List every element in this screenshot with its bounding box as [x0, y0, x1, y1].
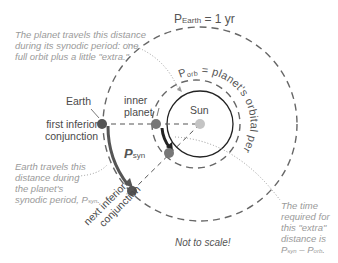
sun-dot — [195, 119, 205, 129]
psyn-label: Psyn — [124, 146, 145, 161]
planet-label-leader — [157, 108, 159, 116]
extra-note-leader — [175, 137, 280, 200]
inner-planet-dot — [151, 119, 161, 129]
first-conjunction-label: first inferior conjunction — [40, 118, 98, 142]
sun-label: Sun — [190, 104, 209, 116]
planet-distance-note: The planet travels this distance during … — [15, 29, 146, 62]
earth-distance-note: Earth travels this distance during the p… — [15, 161, 100, 207]
inner-planet-next-dot — [164, 148, 174, 158]
earth-label: Earth — [66, 95, 91, 107]
extra-time-formula: Psyn – Porb. — [281, 244, 330, 257]
earth-label-leader — [91, 109, 99, 118]
extra-time-note: The time required for this "extra" dista… — [281, 200, 330, 257]
inner-planet-label: inner planet — [124, 94, 153, 118]
earth-period-title: PEarth = 1 yr — [174, 12, 235, 26]
not-to-scale-note: Not to scale! — [175, 237, 231, 248]
earth-first-conjunction-dot — [97, 119, 107, 129]
